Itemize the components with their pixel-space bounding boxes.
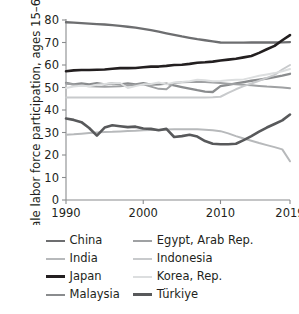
y-tick-label: 80 — [44, 13, 59, 27]
legend-swatch-icon — [133, 276, 152, 278]
legend-swatch-icon — [133, 240, 152, 242]
x-tick-label: 2019 — [275, 206, 299, 220]
y-tick-label: 70 — [44, 36, 59, 50]
x-tick-label: 1990 — [51, 206, 80, 220]
x-tick-label: 2000 — [129, 206, 158, 220]
y-tick-label: 50 — [44, 81, 59, 95]
legend-swatch-icon — [133, 258, 152, 260]
y-axis-tick-labels: 01020304050607080 — [44, 13, 59, 207]
legend-swatch-icon — [46, 258, 65, 260]
legend-swatch-icon — [46, 240, 65, 242]
y-tick-label: 10 — [44, 171, 59, 185]
chart-figure: Female labor force participation, ages 1… — [0, 0, 299, 314]
x-axis-tick-labels: 1990200020102019 — [51, 206, 299, 220]
legend-entry[interactable]: Egypt, Arab Rep. — [133, 232, 254, 249]
legend-entry[interactable]: Indonesia — [133, 250, 254, 267]
legend-entry[interactable]: Malaysia — [46, 286, 120, 303]
y-axis-title: Female labor force participation, ages 1… — [29, 0, 43, 225]
legend-grid: ChinaEgypt, Arab Rep.IndiaIndonesiaJapan… — [46, 232, 254, 312]
series-line — [66, 35, 290, 71]
legend-label: Korea, Rep. — [157, 270, 222, 283]
legend-entry[interactable]: Korea, Rep. — [133, 268, 254, 285]
line-chart-svg: Female labor force participation, ages 1… — [0, 0, 299, 225]
legend-label: Egypt, Arab Rep. — [157, 234, 254, 247]
legend-label: China — [70, 234, 103, 247]
legend-entry[interactable]: India — [46, 250, 120, 267]
legend-swatch-icon — [46, 294, 65, 296]
chart-series-lines — [66, 22, 290, 161]
legend-swatch-icon — [133, 293, 152, 296]
axis-spines — [62, 19, 290, 204]
y-tick-label: 0 — [52, 193, 59, 207]
series-line — [66, 22, 290, 42]
y-tick-label: 40 — [44, 103, 59, 117]
legend-label: Türkiye — [157, 288, 198, 301]
x-tick-label: 2010 — [206, 206, 235, 220]
y-tick-label: 30 — [44, 126, 59, 140]
legend-entry[interactable]: Japan — [46, 268, 120, 285]
y-axis-title-text: Female labor force participation, ages 1… — [29, 0, 43, 225]
legend-label: India — [70, 252, 98, 265]
legend-swatch-icon — [46, 275, 65, 278]
chart-legend: ChinaEgypt, Arab Rep.IndiaIndonesiaJapan… — [0, 232, 299, 312]
legend-entry[interactable]: Türkiye — [133, 286, 254, 303]
legend-entry[interactable]: China — [46, 232, 120, 249]
legend-label: Malaysia — [70, 288, 120, 301]
chart-plot-area: Female labor force participation, ages 1… — [0, 0, 299, 225]
y-tick-label: 60 — [44, 58, 59, 72]
legend-label: Indonesia — [157, 252, 213, 265]
legend-label: Japan — [70, 270, 102, 283]
y-tick-label: 20 — [44, 148, 59, 162]
